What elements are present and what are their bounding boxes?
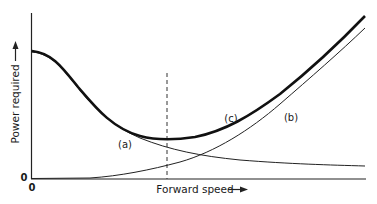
y-axis-label: Power required — [9, 64, 21, 143]
x-axis-label: Forward speed — [156, 183, 233, 195]
curve-c-label: (c) — [224, 113, 237, 124]
y-axis-arrow-icon — [13, 41, 19, 61]
x-origin-label: 0 — [29, 182, 36, 193]
curve-a — [32, 52, 365, 166]
y-origin-label: 0 — [21, 172, 28, 183]
curve-c — [32, 16, 365, 139]
curve-a-label: (a) — [118, 139, 132, 150]
power-speed-chart: (a) (c) (b) 0 0 Forward speed Power requ… — [0, 0, 377, 204]
curve-b-label: (b) — [284, 112, 298, 123]
curve-b — [32, 28, 365, 179]
